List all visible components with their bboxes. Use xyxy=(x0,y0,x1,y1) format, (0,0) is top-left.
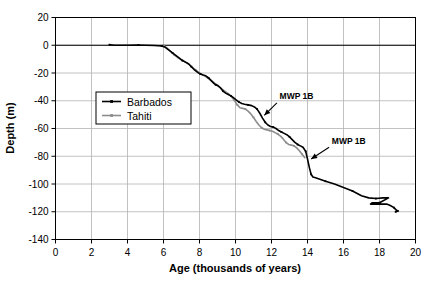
data-point-marker xyxy=(281,131,283,133)
data-point-marker xyxy=(264,121,266,123)
y-tick-label: -20 xyxy=(34,68,49,79)
y-tick-label: 20 xyxy=(37,12,49,23)
data-point-marker xyxy=(137,44,139,46)
sea-level-curve-figure: 02468101214161820 200-20-40-60-80-100-12… xyxy=(0,0,437,287)
x-tick-label: 0 xyxy=(53,247,59,258)
x-tick-label: 10 xyxy=(230,247,242,258)
chart-legend: BarbadosTahiti xyxy=(96,92,191,124)
data-point-marker xyxy=(261,127,263,129)
x-tick-label: 4 xyxy=(125,247,131,258)
data-point-marker xyxy=(191,66,193,68)
data-point-marker xyxy=(247,104,249,106)
data-point-marker xyxy=(277,133,279,135)
data-point-marker xyxy=(222,90,224,92)
data-point-marker xyxy=(245,108,247,110)
annotation-label: MWP 1B xyxy=(280,91,314,101)
data-point-marker xyxy=(208,77,210,79)
data-point-marker xyxy=(375,198,377,200)
x-tick-label: 18 xyxy=(374,247,386,258)
data-point-marker xyxy=(200,73,202,75)
data-point-marker xyxy=(253,117,255,119)
x-tick-label: 20 xyxy=(410,247,422,258)
data-point-marker xyxy=(269,130,271,132)
data-point-marker xyxy=(289,136,291,138)
data-point-marker xyxy=(161,45,163,47)
x-tick-label: 2 xyxy=(89,247,95,258)
data-point-marker xyxy=(272,126,274,128)
data-point-marker xyxy=(325,180,327,182)
data-point-marker xyxy=(109,44,111,46)
data-point-marker xyxy=(215,84,217,86)
data-point-marker xyxy=(236,104,238,106)
data-point-marker xyxy=(352,190,354,192)
data-point-marker xyxy=(305,150,307,152)
y-tick-label: -60 xyxy=(34,123,49,134)
data-point-marker xyxy=(182,60,184,62)
legend-label: Barbados xyxy=(127,96,172,108)
legend-label: Tahiti xyxy=(127,110,152,122)
data-point-marker xyxy=(393,207,395,209)
legend-swatch-marker xyxy=(110,100,113,103)
data-point-marker xyxy=(310,173,312,175)
y-tick-label: -80 xyxy=(34,151,49,162)
y-tick-label: 0 xyxy=(43,40,49,51)
x-tick-label: 12 xyxy=(266,247,278,258)
x-tick-label: 14 xyxy=(302,247,314,258)
y-tick-label: -120 xyxy=(28,206,48,217)
x-tick-label: 8 xyxy=(197,247,203,258)
data-point-marker xyxy=(293,145,295,147)
y-tick-label: -140 xyxy=(28,234,48,245)
data-point-marker xyxy=(297,144,299,146)
y-axis-title: Depth (m) xyxy=(4,102,16,154)
annotation-label: MWP 1B xyxy=(332,136,366,146)
data-point-marker xyxy=(395,211,397,213)
data-point-marker xyxy=(230,95,232,97)
data-point-marker xyxy=(238,101,240,103)
x-tick-label: 16 xyxy=(338,247,350,258)
data-point-marker xyxy=(256,108,258,110)
data-point-marker xyxy=(172,52,174,54)
y-tick-label: -40 xyxy=(34,95,49,106)
legend-swatch-marker xyxy=(110,114,113,117)
data-point-marker xyxy=(285,141,287,143)
x-tick-label: 6 xyxy=(161,247,167,258)
figure-background xyxy=(0,0,437,287)
chart-canvas: 02468101214161820 200-20-40-60-80-100-12… xyxy=(0,0,437,287)
x-axis-title: Age (thousands of years) xyxy=(169,262,301,274)
data-point-marker xyxy=(301,153,303,155)
data-point-marker xyxy=(379,203,381,205)
y-tick-label: -100 xyxy=(28,179,48,190)
